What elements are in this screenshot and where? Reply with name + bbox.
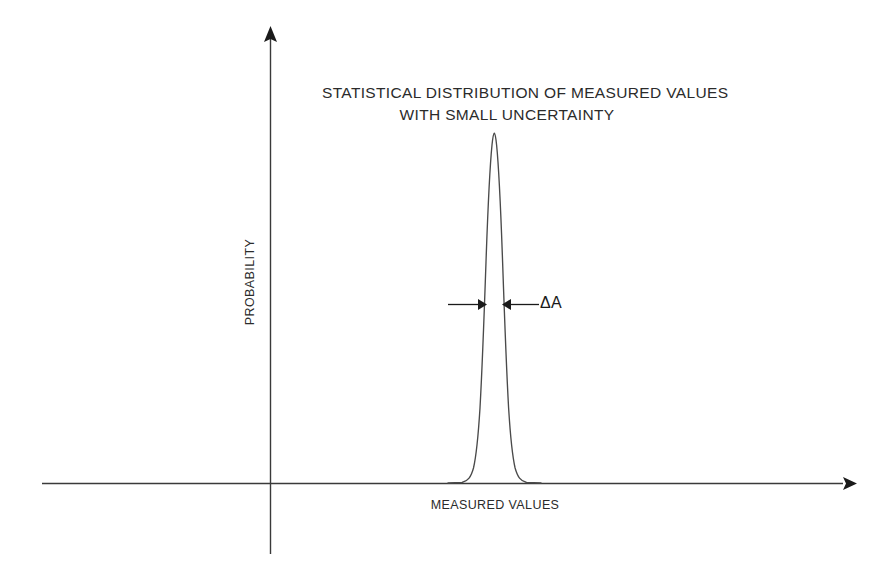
right-width-arrow — [502, 299, 539, 310]
x-axis-label: MEASURED VALUES — [395, 498, 595, 512]
chart-title-line-2: WITH SMALL UNCERTAINTY — [322, 104, 692, 126]
chart-title: STATISTICAL DISTRIBUTION OF MEASURED VAL… — [322, 82, 692, 126]
statistical-distribution-figure: STATISTICAL DISTRIBUTION OF MEASURED VAL… — [0, 0, 869, 583]
left-width-arrow — [448, 299, 487, 310]
chart-title-line-1: STATISTICAL DISTRIBUTION OF MEASURED VAL… — [322, 82, 692, 104]
arrow-right-icon — [843, 477, 857, 490]
uncertainty-width-label: ΔA — [540, 294, 562, 312]
distribution-curve — [448, 133, 541, 483]
y-axis-label: PROBABILITY — [243, 202, 257, 362]
